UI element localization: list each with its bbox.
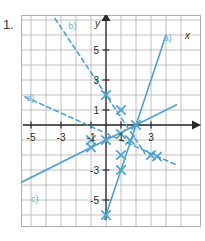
plot-svg: -5-3-113531-3-5 x y a)b)c)d) xyxy=(21,15,201,227)
coordinate-plot: -5-3-113531-3-5 x y a)b)c)d) xyxy=(21,15,201,227)
x-tick-label: -1 xyxy=(87,132,96,143)
x-tick-label: 1 xyxy=(118,132,124,143)
y-tick-label: 1 xyxy=(93,105,99,116)
y-axis-label: y xyxy=(94,18,101,29)
x-axis-label: x xyxy=(184,30,191,41)
figure-root: 1. -5-3-113531-3-5 x y a)b)c)d) xyxy=(0,0,205,241)
y-tick-label: 3 xyxy=(93,75,99,86)
y-tick-label: -3 xyxy=(90,165,99,176)
exercise-number: 1. xyxy=(3,17,13,32)
series-annotation-label: c) xyxy=(31,194,39,204)
series-annotation-label: d) xyxy=(27,93,35,103)
x-tick-label: -3 xyxy=(57,132,66,143)
series-annotation-label: a) xyxy=(164,33,172,43)
y-tick-label: -5 xyxy=(90,195,99,206)
series-annotation-label: b) xyxy=(69,21,77,31)
x-tick-label: 3 xyxy=(148,132,154,143)
plot-background xyxy=(21,15,201,227)
x-tick-label: -5 xyxy=(27,132,36,143)
y-tick-label: 5 xyxy=(93,45,99,56)
